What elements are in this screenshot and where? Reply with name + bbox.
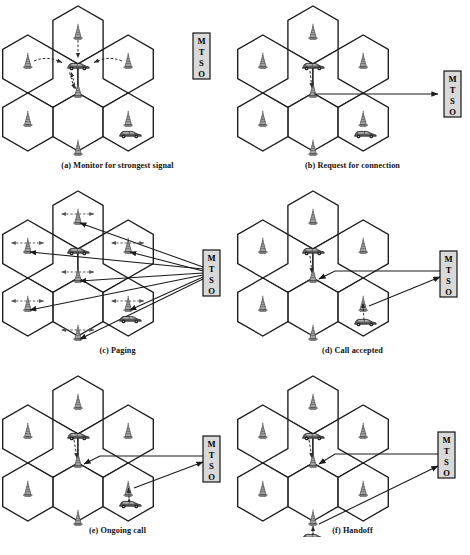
panel-e-ongoing-call: M T S O (e) Ongoing call (0, 374, 235, 555)
mtso-letter: T (209, 264, 215, 274)
mtso-letter: S (209, 461, 214, 471)
panel-caption: (e) Ongoing call (0, 526, 235, 535)
panel-caption: (a) Monitor for strongest signal (0, 161, 235, 170)
mtso-letter: T (209, 450, 215, 460)
mtso-letter: O (208, 472, 215, 482)
panel-b-request-for-connection: M T S O (b) Request for connection (235, 4, 470, 189)
mtso-letter: O (443, 468, 450, 478)
cellular-call-stages-figure: M T S O (a) Monitor for strongest signal (0, 0, 470, 555)
mtso-letter: T (444, 446, 450, 456)
panel-e-diagram: M T S O (0, 374, 235, 537)
mtso-box: M T S O (193, 33, 210, 79)
panel-a-diagram: M T S O (0, 4, 235, 167)
panel-f-handoff: M T S O (f) Handoff (235, 374, 470, 555)
panel-a-monitor-for-strongest-signal: M T S O (a) Monitor for strongest signal (0, 4, 235, 189)
mtso-letter: S (450, 96, 455, 106)
panel-d-diagram: M T S O (235, 189, 470, 352)
mtso-letter: T (450, 85, 456, 95)
mtso-letter: T (199, 47, 205, 57)
mtso-letter: M (444, 254, 452, 264)
panel-f-diagram: M T S O (235, 374, 470, 537)
mtso-letter: O (445, 287, 452, 297)
mtso-box: M T S O (438, 432, 455, 478)
panel-d-call-accepted: M T S O (d) Call accepted (235, 189, 470, 374)
mtso-letter: M (197, 36, 205, 46)
mtso-letter: S (446, 276, 451, 286)
mtso-letter: M (448, 74, 456, 84)
panel-c-diagram: M T S O (0, 189, 235, 352)
mtso-letter: O (208, 286, 215, 296)
panel-caption: (d) Call accepted (235, 346, 470, 355)
mtso-letter: S (444, 457, 449, 467)
mtso-box: M T S O (203, 250, 220, 296)
mtso-letter: O (449, 107, 456, 117)
mtso-letter: S (209, 275, 214, 285)
mtso-box: M T S O (444, 71, 461, 117)
mtso-letter: M (207, 439, 215, 449)
mtso-letter: M (442, 435, 450, 445)
panel-b-diagram: M T S O (235, 4, 470, 167)
panel-c-paging: M T S O (c) Paging (0, 189, 235, 374)
panel-caption: (f) Handoff (235, 526, 470, 535)
mtso-letter: O (198, 69, 205, 79)
mtso-letter: S (199, 58, 204, 68)
panel-caption: (b) Request for connection (235, 161, 470, 170)
mtso-letter: T (446, 265, 452, 275)
panel-caption: (c) Paging (0, 346, 235, 355)
mtso-box: M T S O (440, 251, 457, 297)
mtso-letter: M (207, 253, 215, 263)
mtso-box: M T S O (203, 436, 220, 482)
